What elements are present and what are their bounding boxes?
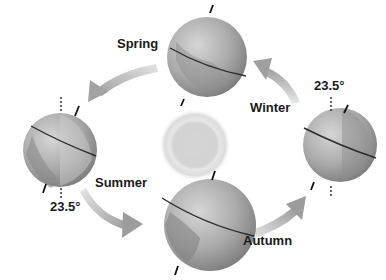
globe-bottom-icon [162, 171, 256, 275]
sun-icon [159, 109, 231, 181]
globe-right-icon [303, 97, 377, 196]
globe-top-icon [167, 5, 247, 106]
arrow-spring-icon [88, 64, 158, 102]
season-label-summer: Summer [95, 175, 147, 190]
season-label-autumn: Autumn [243, 233, 292, 248]
season-label-spring: Spring [117, 36, 158, 51]
arrow-summer-icon [80, 188, 143, 238]
arrow-winter-icon [253, 58, 300, 104]
seasons-diagram: Spring Summer Autumn Winter 23.5° 23.5° [0, 0, 386, 280]
season-label-winter: Winter [250, 100, 290, 115]
tilt-label-left: 23.5° [50, 199, 81, 214]
globe-left-icon [23, 97, 97, 200]
diagram-canvas [0, 0, 386, 280]
arrow-autumn-icon [252, 196, 306, 238]
tilt-label-right: 23.5° [314, 78, 345, 93]
